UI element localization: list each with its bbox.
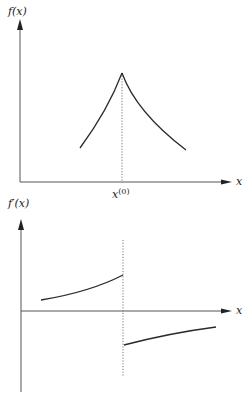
- top-x-axis-label: x: [236, 175, 243, 188]
- bottom-plot: f′(x) x: [7, 197, 243, 392]
- f-curve-right: [122, 73, 186, 150]
- bottom-x-axis-arrow-icon: [221, 309, 232, 314]
- top-x-axis-arrow-icon: [221, 180, 232, 185]
- top-plot: f(x) x x(0): [7, 5, 243, 201]
- f-curve-left: [80, 73, 122, 148]
- top-y-axis-label: f(x): [7, 5, 27, 18]
- marker-label-x0: x(0): [112, 187, 130, 201]
- figure-canvas: f(x) x x(0) f′(x) x: [0, 0, 249, 399]
- f-prime-curve-right: [124, 327, 216, 345]
- bottom-y-axis-label: f′(x): [7, 197, 29, 210]
- top-y-axis-arrow-icon: [17, 19, 23, 30]
- bottom-y-axis-arrow-icon: [18, 219, 24, 230]
- f-prime-curve-left: [41, 275, 123, 300]
- marker-superscript: (0): [118, 187, 129, 196]
- bottom-x-axis-label: x: [236, 304, 243, 317]
